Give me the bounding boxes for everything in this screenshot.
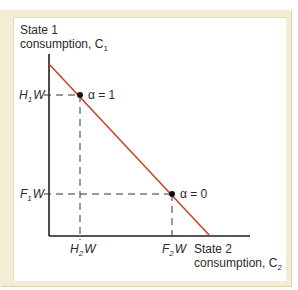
x-axis-label-line2: consumption, C2 [194,256,282,272]
alpha-1-label: α = 1 [88,88,116,102]
y-tick-f1w: F1W [20,187,46,203]
y-tick-h1w: H1W [19,88,46,104]
y-axis-label-line1: State 1 [20,23,58,37]
x-axis-label-line1: State 2 [194,242,232,256]
y-axis-label-line2: consumption, C1 [20,37,108,53]
point-alpha-0 [169,191,175,197]
chart: State 1 consumption, C1 α = 1 α = 0 H1W … [0,0,298,290]
x-tick-h2w: H2W [70,242,97,258]
budget-line [49,64,210,236]
x-tick-f2w: F2W [162,242,188,258]
alpha-0-label: α = 0 [180,187,208,201]
point-alpha-1 [77,92,83,98]
